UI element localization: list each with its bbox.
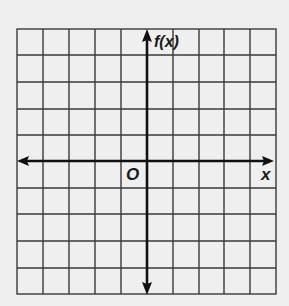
y-axis-label: f(x) [154,33,179,50]
coordinate-grid: f(x) x O [0,0,289,306]
x-axis-label: x [260,165,272,184]
origin-label: O [126,165,139,184]
x-axis [17,156,274,166]
